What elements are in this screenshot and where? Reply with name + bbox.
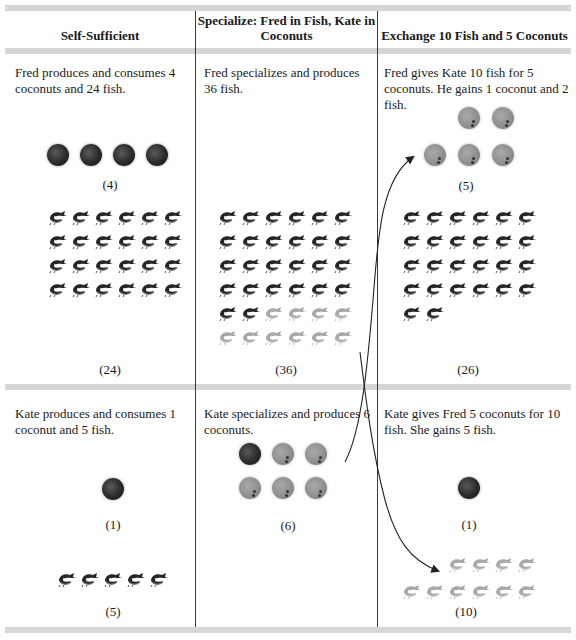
coconut-icon (424, 144, 446, 166)
fred-specialize-fish (217, 208, 354, 346)
fish-icon (470, 555, 492, 573)
fish-icon (47, 280, 69, 298)
column-divider-1 (195, 11, 196, 627)
coconut-icon (492, 107, 514, 129)
fish-icon (447, 280, 469, 298)
bottom-rule (5, 627, 571, 633)
fish-icon (148, 570, 170, 588)
fish-icon (263, 208, 285, 226)
fish-icon (332, 304, 354, 322)
fish-icon (217, 328, 239, 346)
fish-icon (93, 232, 115, 250)
fish-icon (401, 582, 423, 600)
fish-icon (309, 208, 331, 226)
coconut-icon (492, 144, 514, 166)
fish-icon (286, 304, 308, 322)
fish-icon (162, 256, 184, 274)
fish-icon (516, 256, 538, 274)
fish-icon (240, 280, 262, 298)
coconut-icon (239, 477, 261, 499)
fish-icon (332, 208, 354, 226)
coconut-icon (458, 107, 480, 129)
fish-icon (240, 304, 262, 322)
fish-icon (56, 570, 78, 588)
fish-icon (332, 280, 354, 298)
fish-icon (47, 232, 69, 250)
fish-icon (493, 232, 515, 250)
fish-icon (139, 232, 161, 250)
fish-icon (470, 256, 492, 274)
column-divider-2 (377, 11, 378, 627)
fish-icon (162, 280, 184, 298)
fish-icon (493, 280, 515, 298)
fish-icon (286, 208, 308, 226)
fish-icon (217, 232, 239, 250)
header-rule (5, 48, 571, 54)
kate-self-sufficient-fish (56, 570, 170, 588)
fish-icon (116, 208, 138, 226)
fish-icon (493, 208, 515, 226)
fish-icon (139, 256, 161, 274)
fish-icon (447, 256, 469, 274)
fred-exchange-description: Fred gives Kate 10 fish for 5 coconuts. … (384, 65, 574, 113)
header-exchange: Exchange 10 Fish and 5 Coconuts (378, 11, 571, 48)
fish-icon (424, 280, 446, 298)
header-specialize: Specialize: Fred in Fish, Kate in Coconu… (196, 11, 377, 48)
coconut-icon (458, 144, 480, 166)
fish-icon (286, 280, 308, 298)
fish-icon (162, 208, 184, 226)
fred-exchange-fish-count: (26) (438, 362, 498, 378)
fish-icon (332, 328, 354, 346)
fish-icon (516, 280, 538, 298)
coconut-icon (80, 144, 102, 166)
kate-specialize-coconut-count: (6) (258, 518, 318, 534)
fish-icon (516, 208, 538, 226)
fish-icon (217, 280, 239, 298)
fred-self-sufficient-coconut-count: (4) (80, 177, 140, 193)
coconut-icon (239, 443, 261, 465)
fred-self-sufficient-description: Fred produces and consumes 4 coconuts an… (15, 65, 190, 97)
fish-icon (263, 328, 285, 346)
fish-icon (447, 555, 469, 573)
fish-icon (447, 208, 469, 226)
fish-icon (401, 208, 423, 226)
kate-exchange-description: Kate gives Fred 5 coconuts for 10 fish. … (384, 406, 574, 438)
fish-icon (470, 208, 492, 226)
fish-icon (79, 570, 101, 588)
coconut-icon (146, 144, 168, 166)
fish-icon (424, 304, 446, 322)
fish-icon (309, 304, 331, 322)
kate-exchange-fish-row-1 (447, 555, 538, 573)
fish-icon (116, 280, 138, 298)
fish-icon (447, 232, 469, 250)
fish-icon (424, 582, 446, 600)
fish-icon (309, 232, 331, 250)
fish-icon (424, 256, 446, 274)
fish-icon (493, 582, 515, 600)
fish-icon (493, 555, 515, 573)
kate-specialize-description: Kate specializes and produces 6 coconuts… (204, 406, 374, 438)
coconut-icon (305, 443, 327, 465)
fish-icon (93, 256, 115, 274)
fish-icon (401, 232, 423, 250)
fish-icon (70, 232, 92, 250)
fish-icon (401, 280, 423, 298)
fish-icon (286, 232, 308, 250)
kate-self-sufficient-fish-count: (5) (83, 604, 143, 620)
fish-icon (516, 555, 538, 573)
fish-icon (516, 582, 538, 600)
fish-icon (516, 232, 538, 250)
fred-self-sufficient-fish (47, 208, 184, 298)
fish-icon (493, 256, 515, 274)
fish-icon (240, 232, 262, 250)
fish-icon (102, 570, 124, 588)
fish-icon (217, 256, 239, 274)
fish-icon (139, 280, 161, 298)
fish-icon (240, 208, 262, 226)
coconut-icon (113, 144, 135, 166)
fish-icon (217, 208, 239, 226)
fish-icon (424, 208, 446, 226)
fish-icon (116, 256, 138, 274)
fred-specialize-fish-count: (36) (256, 362, 316, 378)
fish-icon (116, 232, 138, 250)
